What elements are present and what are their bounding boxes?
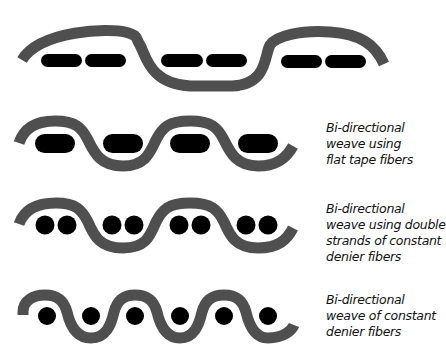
label-line: strands of constant — [326, 233, 446, 249]
label-line: denier fibers — [326, 249, 446, 265]
weave-row-2 — [19, 121, 293, 166]
label-line: weave of constant — [326, 308, 436, 324]
label-flat-tape-weave: Bi-directional weave using flat tape fib… — [326, 120, 413, 168]
label-line: Bi-directional — [326, 120, 413, 136]
label-line: flat tape fibers — [326, 152, 413, 168]
weave-row-1 — [22, 30, 384, 86]
label-line: denier fibers — [326, 324, 436, 340]
label-double-strand-weave: Bi-directional weave using double strand… — [326, 201, 446, 265]
flat-tape-fibers-row-1 — [41, 54, 366, 68]
label-line: Bi-directional — [326, 292, 436, 308]
label-constant-denier-weave: Bi-directional weave of constant denier … — [326, 292, 436, 340]
label-line: Bi-directional — [326, 201, 446, 217]
label-line: weave using — [326, 136, 413, 152]
label-line: weave using double — [326, 217, 446, 233]
weave-row-3 — [19, 203, 293, 248]
yarn-strand-row-4 — [23, 295, 294, 338]
weave-row-4 — [23, 295, 294, 338]
